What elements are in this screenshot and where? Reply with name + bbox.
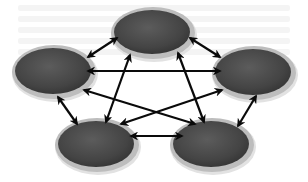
node-bottom-right: [170, 118, 256, 175]
node-left: [12, 45, 98, 102]
double-arrow-top-bottom-right: [178, 53, 204, 122]
double-arrow-top-left: [88, 38, 117, 57]
double-arrow-top-right: [190, 38, 220, 57]
diagram-canvas: [0, 0, 308, 182]
node-bottom-left: [55, 118, 141, 175]
nodes-layer: [12, 7, 298, 175]
node-body: [114, 10, 190, 54]
node-top: [111, 7, 197, 62]
node-right: [212, 46, 298, 103]
node-body: [173, 121, 249, 167]
node-body: [58, 121, 134, 167]
node-body: [215, 49, 291, 95]
double-arrow-left-bottom-left: [58, 97, 77, 124]
double-arrow-top-bottom-left: [106, 55, 130, 122]
node-body: [15, 48, 91, 94]
network-diagram: [0, 0, 308, 182]
